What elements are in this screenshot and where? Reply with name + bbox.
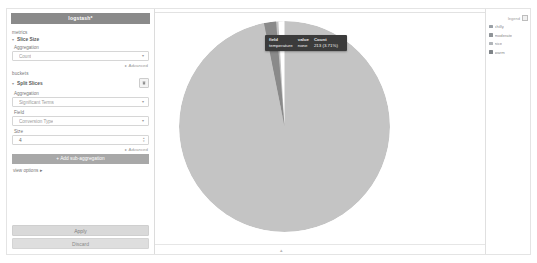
metrics-section-label: metrics — [12, 30, 149, 35]
trash-icon — [142, 81, 146, 85]
legend-item[interactable]: warm — [489, 50, 528, 55]
bucket-agg-title: ▾ Split Slices — [12, 81, 43, 86]
panel-title: logstash* — [11, 13, 150, 24]
metric-agg-header[interactable]: ▾ Slice Size — [12, 37, 149, 42]
legend-item[interactable]: nice — [489, 41, 528, 46]
chevron-down-icon: ▾ — [142, 54, 144, 58]
bucket-agg-header[interactable]: ▾ Split Slices — [12, 78, 149, 88]
legend-item-label: nice — [495, 41, 503, 46]
metric-agg-name: Slice Size — [17, 37, 39, 42]
bucket-advanced-toggle[interactable]: ▸ Advanced — [12, 147, 148, 152]
legend-item-label: warm — [495, 50, 505, 55]
metric-aggregation-value: Count — [19, 54, 31, 59]
chevron-down-icon: ▾ — [142, 119, 144, 123]
legend-item-label: moderate — [495, 33, 513, 38]
editor-body: metrics ▾ Slice Size Aggregation Count ▾… — [7, 24, 154, 223]
legend-swatch-icon — [489, 50, 493, 54]
legend-item[interactable]: moderate — [489, 33, 528, 38]
tooltip-count-value: 213 (3.71%) — [314, 43, 343, 48]
bucket-aggregation-select[interactable]: Significant Terms ▾ — [12, 97, 149, 107]
chart-tooltip: field value Count temperature none 213 (… — [265, 35, 347, 51]
legend-header-label: legend — [508, 16, 520, 21]
legend-swatch-icon — [489, 25, 493, 29]
bucket-size-input[interactable]: 4 ▴ ▾ — [12, 135, 149, 145]
buckets-section-label: buckets — [12, 71, 149, 76]
bucket-aggregation-label: Aggregation — [14, 91, 149, 96]
tooltip-table: field value Count temperature none 213 (… — [269, 37, 343, 48]
metric-aggregation-select[interactable]: Count ▾ — [12, 51, 149, 61]
pie-chart[interactable] — [179, 21, 390, 232]
chart-top-divider — [155, 12, 485, 13]
kibana-visualize-app: logstash* metrics ▾ Slice Size Aggregati… — [6, 8, 531, 255]
legend-swatch-icon — [489, 33, 493, 37]
apply-button[interactable]: Apply — [12, 225, 149, 236]
stepper-down-icon[interactable]: ▾ — [143, 140, 145, 143]
chevron-down-icon: ▾ — [142, 100, 144, 104]
chevron-up-icon[interactable]: ▴ — [280, 248, 283, 253]
bucket-field-select[interactable]: Conversion Type ▾ — [12, 116, 149, 126]
bucket-agg-name: Split Slices — [17, 81, 43, 86]
bucket-aggregation-value: Significant Terms — [19, 100, 54, 105]
metric-aggregation-label: Aggregation — [14, 45, 149, 50]
view-options-toggle[interactable]: view options ▸ — [13, 168, 149, 173]
quantity-stepper[interactable]: ▴ ▾ — [143, 137, 145, 143]
legend-items: chillymoderatenicewarm — [489, 24, 528, 55]
editor-footer: Apply Discard — [7, 223, 154, 254]
bucket-field-label: Field — [14, 110, 149, 115]
tooltip-field-value: temperature — [269, 43, 298, 48]
visualization-editor-panel: logstash* metrics ▾ Slice Size Aggregati… — [7, 9, 155, 254]
chart-area: field value Count temperature none 213 (… — [155, 9, 485, 254]
legend-header[interactable]: legend — [489, 15, 528, 21]
bucket-field-value: Conversion Type — [19, 119, 53, 124]
metric-advanced-toggle[interactable]: ▸ Advanced — [12, 63, 148, 68]
discard-button[interactable]: Discard — [12, 238, 149, 249]
tooltip-value-value: none — [298, 43, 314, 48]
remove-bucket-button[interactable] — [139, 78, 149, 88]
bucket-size-value: 4 — [19, 138, 22, 143]
add-sub-aggregation-button[interactable]: + Add sub-aggregation — [12, 154, 149, 164]
chart-bottom-divider — [155, 244, 485, 245]
legend-item-label: chilly — [495, 24, 504, 29]
legend-swatch-icon — [489, 42, 493, 46]
legend-item[interactable]: chilly — [489, 24, 528, 29]
chart-legend: legend chillymoderatenicewarm — [485, 9, 530, 254]
pie-svg[interactable] — [179, 21, 390, 232]
bucket-size-label: Size — [14, 129, 149, 134]
tooltip-data-row: temperature none 213 (3.71%) — [269, 43, 343, 48]
legend-collapse-icon[interactable] — [522, 15, 528, 21]
